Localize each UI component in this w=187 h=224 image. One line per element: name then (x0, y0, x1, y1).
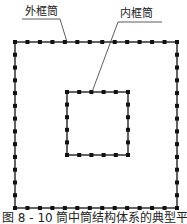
column-marker (89, 153, 93, 157)
column-marker (38, 206, 42, 210)
column-marker (50, 40, 54, 44)
column-marker (65, 140, 69, 144)
column-marker (138, 206, 142, 210)
column-marker (100, 206, 104, 210)
inner-tube-frame (65, 90, 130, 157)
column-marker (114, 153, 118, 157)
column-marker (75, 206, 79, 210)
column-marker (113, 206, 117, 210)
column-marker (13, 40, 17, 44)
column-marker (25, 40, 29, 44)
column-marker (175, 104, 179, 108)
column-marker (102, 90, 106, 94)
column-marker (175, 206, 179, 210)
column-marker (175, 53, 179, 57)
column-marker (175, 142, 179, 146)
column-marker (125, 40, 129, 44)
column-marker (13, 91, 17, 95)
inner-tube-label: 内框筒 (120, 8, 153, 20)
column-marker (126, 90, 130, 94)
outer-tube-frame (13, 40, 179, 210)
column-marker (114, 90, 118, 94)
column-marker (65, 128, 69, 132)
column-marker (88, 40, 92, 44)
column-marker (13, 66, 17, 70)
column-marker (126, 153, 130, 157)
column-marker (13, 168, 17, 172)
column-marker (13, 129, 17, 133)
column-marker (75, 40, 79, 44)
column-marker (65, 103, 69, 107)
column-marker (13, 206, 17, 210)
inner-tube-leader-line (92, 22, 162, 92)
column-marker (175, 155, 179, 159)
column-marker (13, 193, 17, 197)
column-marker (126, 103, 130, 107)
column-marker (126, 140, 130, 144)
column-marker (175, 193, 179, 197)
tube-in-tube-plan-diagram (0, 0, 187, 224)
column-marker (102, 153, 106, 157)
column-marker (175, 66, 179, 70)
column-marker (13, 53, 17, 57)
figure-caption: 图 8 - 10 筒中筒结构体系的典型平面 (2, 211, 187, 224)
column-marker (65, 153, 69, 157)
column-marker (150, 206, 154, 210)
column-marker (50, 206, 54, 210)
column-marker (13, 117, 17, 121)
column-marker (126, 128, 130, 132)
column-marker (13, 180, 17, 184)
column-marker (88, 206, 92, 210)
column-marker (77, 90, 81, 94)
column-marker (175, 168, 179, 172)
column-marker (175, 40, 179, 44)
column-marker (175, 129, 179, 133)
column-marker (113, 40, 117, 44)
column-marker (175, 78, 179, 82)
column-marker (163, 206, 167, 210)
column-marker (38, 40, 42, 44)
column-marker (63, 206, 67, 210)
column-marker (13, 155, 17, 159)
column-marker (163, 40, 167, 44)
outer-tube-label: 外框筒 (25, 6, 58, 18)
column-marker (175, 117, 179, 121)
column-marker (65, 90, 69, 94)
column-marker (13, 142, 17, 146)
column-marker (100, 40, 104, 44)
outer-tube-leader-line (22, 19, 67, 42)
column-marker (150, 40, 154, 44)
column-marker (65, 115, 69, 119)
column-marker (175, 180, 179, 184)
column-marker (126, 115, 130, 119)
column-marker (125, 206, 129, 210)
column-marker (25, 206, 29, 210)
column-marker (77, 153, 81, 157)
column-marker (175, 91, 179, 95)
column-marker (138, 40, 142, 44)
column-marker (13, 104, 17, 108)
column-marker (13, 78, 17, 82)
